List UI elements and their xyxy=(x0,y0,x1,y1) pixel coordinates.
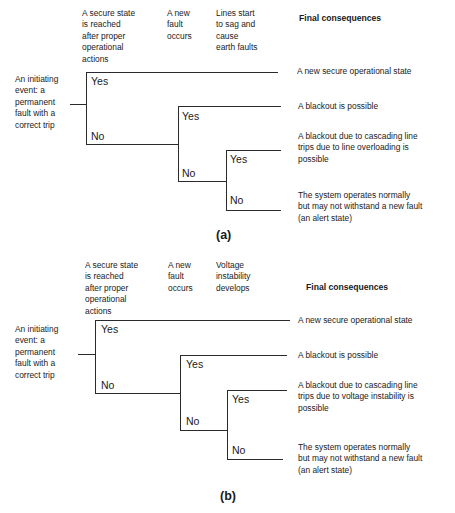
branch-1-yes-line xyxy=(86,72,278,73)
branch-3-yes-line xyxy=(226,150,281,151)
branch-3-yes-label: Yes xyxy=(230,153,247,165)
column-header-voltage-instability: Voltage instability develops xyxy=(216,260,250,294)
branch-1-no-label: No xyxy=(101,379,114,391)
outcome-cascading-blackout: A blackout due to cascading line trips d… xyxy=(298,131,418,165)
branch-2-vertical xyxy=(178,106,179,181)
final-consequences-header: Final consequences xyxy=(306,282,388,292)
branch-1-yes-line xyxy=(95,320,290,321)
branch-2-yes-label: Yes xyxy=(182,110,199,122)
column-header-lines-sag: Lines start to sag and cause earth fault… xyxy=(216,8,257,54)
outcome-alert-state: The system operates normally but may not… xyxy=(298,190,422,224)
branch-1-vertical xyxy=(86,72,87,144)
branch-3-no-line xyxy=(227,459,283,460)
column-header-secure-state: A secure state is reached after proper o… xyxy=(82,8,135,65)
outcome-secure-state: A new secure operational state xyxy=(297,66,412,77)
outcome-secure-state: A new secure operational state xyxy=(298,315,413,326)
branch-2-yes-line xyxy=(178,106,281,107)
outcome-blackout-possible: A blackout is possible xyxy=(298,350,378,361)
initiating-event-label: An initiating event: a permanent fault w… xyxy=(15,324,58,381)
branch-2-yes-line xyxy=(180,355,287,356)
branch-3-vertical xyxy=(226,150,227,210)
branch-2-no-label: No xyxy=(182,167,195,179)
branch-1-vertical xyxy=(95,320,96,393)
final-consequences-header: Final consequences xyxy=(299,13,381,23)
initiating-event-label: An initiating event: a permanent fault w… xyxy=(15,74,58,131)
branch-3-yes-line xyxy=(227,390,287,391)
column-header-new-fault: A new fault occurs xyxy=(168,260,193,294)
outcome-cascading-blackout: A blackout due to cascading line trips d… xyxy=(298,380,418,414)
branch-2-yes-label: Yes xyxy=(186,358,203,370)
branch-2-no-line xyxy=(178,181,226,182)
branch-1-no-line xyxy=(86,144,178,145)
branch-3-no-label: No xyxy=(232,444,245,456)
branch-2-no-label: No xyxy=(186,415,199,427)
branch-3-no-label: No xyxy=(230,194,243,206)
outcome-blackout-possible: A blackout is possible xyxy=(298,101,378,112)
panel-a-caption: (a) xyxy=(216,228,231,242)
column-header-new-fault: A new fault occurs xyxy=(167,8,192,42)
branch-3-no-line xyxy=(226,210,281,211)
panel-b-caption: (b) xyxy=(220,489,236,503)
tree-stub-line xyxy=(78,354,96,355)
branch-1-no-line xyxy=(95,393,180,394)
branch-1-yes-label: Yes xyxy=(101,323,118,335)
branch-3-vertical xyxy=(227,390,228,459)
branch-2-vertical xyxy=(180,355,181,430)
branch-1-yes-label: Yes xyxy=(91,75,108,87)
tree-stub-line xyxy=(70,104,87,105)
outcome-alert-state: The system operates normally but may not… xyxy=(298,442,422,476)
branch-3-yes-label: Yes xyxy=(232,393,249,405)
column-header-secure-state: A secure state is reached after proper o… xyxy=(85,260,138,317)
branch-1-no-label: No xyxy=(91,130,104,142)
branch-2-no-line xyxy=(180,430,227,431)
